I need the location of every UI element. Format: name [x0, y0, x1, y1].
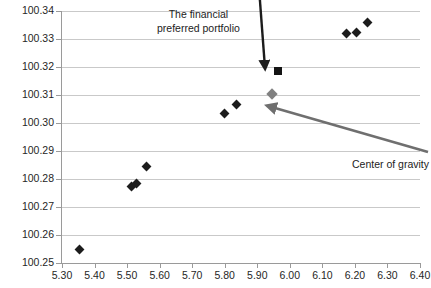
financial-portfolio-annotation-line1: The financial	[157, 8, 240, 22]
x-tick-mark	[62, 263, 63, 268]
gridline	[62, 123, 420, 124]
x-tick-mark	[95, 263, 96, 268]
plot-area	[62, 11, 420, 263]
gridline	[62, 179, 420, 180]
y-tick-label: 100.25	[2, 257, 54, 268]
y-axis-spine	[61, 11, 62, 264]
financial-portfolio-annotation: The financial preferred portfolio	[157, 8, 240, 35]
y-tick-mark	[56, 123, 62, 124]
y-tick-mark	[56, 235, 62, 236]
y-tick-label: 100.34	[2, 5, 54, 16]
scatter-chart: 100.25100.26100.27100.28100.29100.30100.…	[0, 0, 431, 288]
y-tick-mark	[56, 151, 62, 152]
x-tick-mark	[290, 263, 291, 268]
gridline	[62, 207, 420, 208]
x-tick-mark	[225, 263, 226, 268]
data-point-square	[274, 67, 282, 75]
financial-portfolio-annotation-line2: preferred portfolio	[157, 22, 240, 36]
x-tick-mark	[355, 263, 356, 268]
x-tick-mark	[387, 263, 388, 268]
gridline	[62, 11, 420, 12]
y-tick-mark	[56, 39, 62, 40]
gridline	[62, 67, 420, 68]
gridline	[62, 151, 420, 152]
y-tick-mark	[56, 179, 62, 180]
y-tick-label: 100.31	[2, 89, 54, 100]
y-tick-mark	[56, 11, 62, 12]
gridline	[62, 263, 420, 264]
gridline	[62, 95, 420, 96]
y-tick-label: 100.28	[2, 173, 54, 184]
y-tick-label: 100.32	[2, 61, 54, 72]
gridline	[62, 39, 420, 40]
x-tick-mark	[127, 263, 128, 268]
gridline	[62, 235, 420, 236]
y-tick-mark	[56, 67, 62, 68]
y-tick-mark	[56, 95, 62, 96]
x-tick-mark	[160, 263, 161, 268]
x-tick-label: 6.40	[400, 270, 431, 281]
x-tick-mark	[322, 263, 323, 268]
y-tick-label: 100.29	[2, 145, 54, 156]
y-tick-label: 100.27	[2, 201, 54, 212]
y-tick-label: 100.33	[2, 33, 54, 44]
x-tick-mark	[257, 263, 258, 268]
center-of-gravity-annotation: Center of gravity	[352, 158, 429, 172]
y-tick-mark	[56, 207, 62, 208]
y-tick-label: 100.30	[2, 117, 54, 128]
x-tick-mark	[192, 263, 193, 268]
y-tick-label: 100.26	[2, 229, 54, 240]
x-tick-mark	[420, 263, 421, 268]
